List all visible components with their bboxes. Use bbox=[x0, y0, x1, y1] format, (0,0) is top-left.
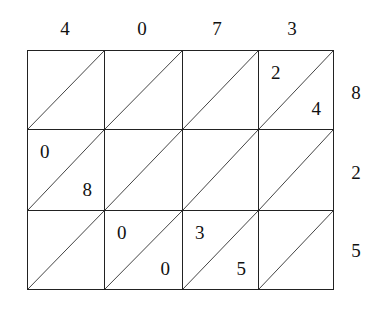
multiplier-digit: 2 bbox=[346, 162, 366, 184]
cell-ones-digit: 5 bbox=[237, 259, 247, 279]
multiplicand-digit: 0 bbox=[132, 18, 152, 40]
diagonal-line bbox=[259, 130, 333, 210]
cell-tens-digit: 0 bbox=[117, 223, 127, 243]
cell-tens-digit: 0 bbox=[40, 142, 50, 162]
diagonal-line bbox=[183, 130, 258, 210]
multiplicand-digit: 7 bbox=[207, 18, 227, 40]
multiplier-digit: 5 bbox=[346, 240, 366, 262]
lattice-cell bbox=[258, 210, 334, 290]
diagonal-line bbox=[28, 51, 104, 129]
cell-ones-digit: 0 bbox=[161, 259, 171, 279]
cell-ones-digit: 4 bbox=[312, 99, 322, 119]
diagonal-line bbox=[259, 211, 333, 289]
lattice-cell bbox=[182, 129, 259, 211]
lattice-cell bbox=[104, 50, 183, 130]
lattice-cell: 0 0 bbox=[104, 210, 183, 290]
diagonal-line bbox=[105, 51, 182, 129]
multiplicand-digit: 3 bbox=[282, 18, 302, 40]
cell-tens-digit: 3 bbox=[195, 223, 205, 243]
cell-tens-digit: 2 bbox=[271, 63, 281, 83]
lattice-cell bbox=[182, 50, 259, 130]
lattice-cell: 3 5 bbox=[182, 210, 259, 290]
lattice-cell bbox=[27, 210, 105, 290]
lattice-cell bbox=[104, 129, 183, 211]
lattice-cell bbox=[258, 129, 334, 211]
lattice-grid: 2 4 0 8 0 0 3 5 bbox=[27, 50, 334, 290]
lattice-cell: 0 8 bbox=[27, 129, 105, 211]
diagonal-line bbox=[183, 51, 258, 129]
multiplicand-digit: 4 bbox=[55, 18, 75, 40]
diagonal-line bbox=[105, 130, 182, 210]
lattice-cell: 2 4 bbox=[258, 50, 334, 130]
multiplier-digit: 8 bbox=[346, 82, 366, 104]
diagonal-line bbox=[28, 211, 104, 289]
cell-ones-digit: 8 bbox=[83, 180, 93, 200]
lattice-cell bbox=[27, 50, 105, 130]
